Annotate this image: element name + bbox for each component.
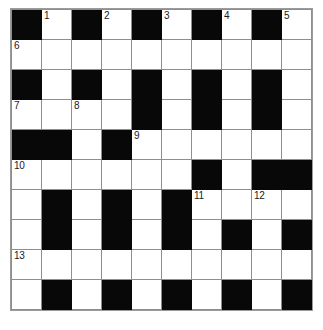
crossword-letter-cell[interactable] <box>252 250 282 280</box>
clue-number: 8 <box>74 100 79 112</box>
crossword-letter-cell[interactable]: 13 <box>12 250 42 280</box>
crossword-letter-cell[interactable] <box>42 40 72 70</box>
crossword-letter-cell[interactable] <box>282 130 312 160</box>
crossword-letter-cell[interactable] <box>42 70 72 100</box>
crossword-letter-cell[interactable] <box>42 160 72 190</box>
crossword-letter-cell[interactable] <box>132 220 162 250</box>
crossword-letter-cell[interactable] <box>192 130 222 160</box>
crossword-letter-cell[interactable] <box>72 250 102 280</box>
crossword-letter-cell[interactable]: 1 <box>42 10 72 40</box>
crossword-block-cell <box>192 100 222 130</box>
crossword-block-cell <box>72 70 102 100</box>
clue-number: 2 <box>104 10 109 22</box>
crossword-letter-cell[interactable]: 3 <box>162 10 192 40</box>
crossword-letter-cell[interactable]: 4 <box>222 10 252 40</box>
crossword-letter-cell[interactable] <box>72 190 102 220</box>
crossword-letter-cell[interactable] <box>282 70 312 100</box>
clue-number: 7 <box>14 100 19 112</box>
crossword-letter-cell[interactable] <box>12 190 42 220</box>
crossword-letter-cell[interactable] <box>42 250 72 280</box>
crossword-letter-cell[interactable] <box>42 100 72 130</box>
clue-number: 1 <box>44 10 49 22</box>
crossword-letter-cell[interactable] <box>102 40 132 70</box>
crossword-letter-cell[interactable] <box>222 70 252 100</box>
crossword-letter-cell[interactable] <box>132 160 162 190</box>
crossword-letter-cell[interactable] <box>192 280 222 310</box>
crossword-letter-cell[interactable]: 6 <box>12 40 42 70</box>
clue-number: 4 <box>224 10 229 22</box>
crossword-letter-cell[interactable]: 12 <box>252 190 282 220</box>
crossword-block-cell <box>282 220 312 250</box>
crossword-block-cell <box>42 130 72 160</box>
crossword-letter-cell[interactable]: 9 <box>132 130 162 160</box>
crossword-block-cell <box>102 280 132 310</box>
crossword-block-cell <box>192 70 222 100</box>
crossword-letter-cell[interactable] <box>282 100 312 130</box>
clue-number: 13 <box>14 250 25 262</box>
crossword-grid[interactable]: 12345678910111213 <box>11 9 313 311</box>
crossword-letter-cell[interactable] <box>102 100 132 130</box>
crossword-block-cell <box>192 10 222 40</box>
crossword-block-cell <box>282 160 312 190</box>
crossword-letter-cell[interactable] <box>132 280 162 310</box>
crossword-letter-cell[interactable] <box>72 220 102 250</box>
crossword-letter-cell[interactable] <box>192 250 222 280</box>
crossword-block-cell <box>252 100 282 130</box>
crossword-letter-cell[interactable] <box>192 40 222 70</box>
clue-number: 10 <box>14 160 25 172</box>
clue-number: 12 <box>254 190 265 202</box>
crossword-letter-cell[interactable] <box>192 220 222 250</box>
crossword-letter-cell[interactable] <box>222 250 252 280</box>
crossword-block-cell <box>132 100 162 130</box>
crossword-letter-cell[interactable] <box>282 40 312 70</box>
crossword-letter-cell[interactable] <box>132 190 162 220</box>
crossword-block-cell <box>42 220 72 250</box>
crossword-letter-cell[interactable] <box>222 100 252 130</box>
crossword-letter-cell[interactable] <box>12 280 42 310</box>
crossword-block-cell <box>132 70 162 100</box>
crossword-letter-cell[interactable]: 2 <box>102 10 132 40</box>
crossword-letter-cell[interactable] <box>222 40 252 70</box>
crossword-letter-cell[interactable]: 11 <box>192 190 222 220</box>
crossword-letter-cell[interactable] <box>162 250 192 280</box>
crossword-letter-cell[interactable] <box>222 190 252 220</box>
crossword-letter-cell[interactable] <box>162 40 192 70</box>
clue-number: 5 <box>284 10 289 22</box>
crossword-block-cell <box>162 190 192 220</box>
crossword-letter-cell[interactable] <box>222 160 252 190</box>
crossword-letter-cell[interactable]: 7 <box>12 100 42 130</box>
crossword-letter-cell[interactable] <box>132 40 162 70</box>
crossword-block-cell <box>42 280 72 310</box>
crossword-letter-cell[interactable]: 5 <box>282 10 312 40</box>
clue-number: 6 <box>14 40 19 52</box>
crossword-letter-cell[interactable] <box>282 190 312 220</box>
clue-number: 11 <box>194 190 204 202</box>
crossword-letter-cell[interactable] <box>252 220 282 250</box>
crossword-letter-cell[interactable] <box>72 280 102 310</box>
crossword-letter-cell[interactable] <box>252 40 282 70</box>
crossword-letter-cell[interactable] <box>222 130 252 160</box>
crossword-letter-cell[interactable] <box>282 250 312 280</box>
crossword-letter-cell[interactable] <box>162 130 192 160</box>
crossword-letter-cell[interactable] <box>132 250 162 280</box>
crossword-letter-cell[interactable] <box>102 160 132 190</box>
crossword-letter-cell[interactable] <box>102 70 132 100</box>
crossword-block-cell <box>222 280 252 310</box>
crossword-letter-cell[interactable] <box>162 160 192 190</box>
clue-number: 3 <box>164 10 169 22</box>
crossword-letter-cell[interactable]: 10 <box>12 160 42 190</box>
crossword-block-cell <box>102 220 132 250</box>
crossword-letter-cell[interactable] <box>72 160 102 190</box>
crossword-block-cell <box>252 160 282 190</box>
crossword-letter-cell[interactable] <box>252 130 282 160</box>
crossword-letter-cell[interactable] <box>102 250 132 280</box>
crossword-block-cell <box>102 190 132 220</box>
crossword-letter-cell[interactable] <box>162 70 192 100</box>
crossword-block-cell <box>162 220 192 250</box>
crossword-letter-cell[interactable]: 8 <box>72 100 102 130</box>
crossword-letter-cell[interactable] <box>12 220 42 250</box>
crossword-letter-cell[interactable] <box>72 130 102 160</box>
crossword-letter-cell[interactable] <box>252 280 282 310</box>
crossword-letter-cell[interactable] <box>162 100 192 130</box>
crossword-letter-cell[interactable] <box>72 40 102 70</box>
